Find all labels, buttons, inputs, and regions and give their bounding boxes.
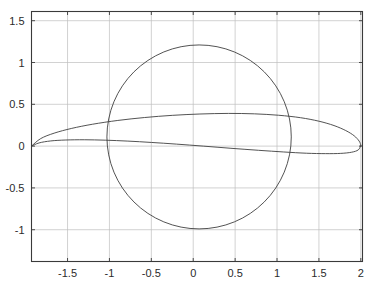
tick-marks	[32, 12, 363, 262]
series-joukowski-airfoil-upper	[32, 113, 361, 146]
x-tick-label: 2	[358, 267, 364, 279]
figure-canvas: 1.510.50-0.5-1 -1.5-1-0.500.511.52	[0, 0, 373, 291]
series-joukowski-airfoil-lower	[32, 140, 361, 154]
axes-frame	[32, 12, 363, 262]
x-tick-label: 1.5	[311, 267, 326, 279]
data-curves	[32, 45, 361, 229]
series-circle	[107, 45, 291, 229]
y-tick-label: -1	[0, 224, 25, 236]
x-tick-label: -1.5	[58, 267, 77, 279]
y-tick-label: -0.5	[0, 182, 25, 194]
y-tick-label: 1	[0, 57, 25, 69]
x-tick-label: 0	[190, 267, 196, 279]
x-tick-label: 1	[274, 267, 280, 279]
y-tick-label: 0.5	[0, 98, 25, 110]
grid-lines	[32, 12, 363, 262]
plot-svg	[0, 0, 373, 291]
x-tick-label: 0.5	[227, 267, 242, 279]
y-tick-label: 1.5	[0, 15, 25, 27]
x-tick-label: -1	[105, 267, 115, 279]
y-tick-label: 0	[0, 140, 25, 152]
x-tick-label: -0.5	[142, 267, 161, 279]
